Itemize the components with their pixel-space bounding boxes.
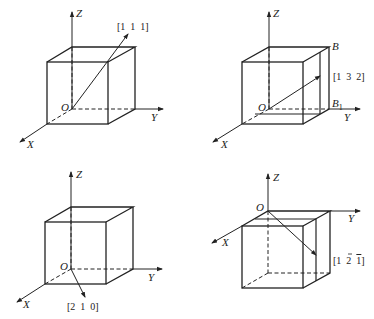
z-label: Z [273,7,280,19]
cube-front-face [47,62,108,124]
origin-label: O [61,101,69,113]
x-label: X [220,138,229,150]
x-label: X [22,298,31,310]
origin-label: O [256,201,264,213]
panel-210 [17,172,162,302]
origin-label: O [60,260,68,272]
z-label: Z [76,7,83,19]
direction-vector [72,34,128,109]
direction-vector [269,76,320,109]
x-label: X [221,236,230,248]
direction-label: [1 1 1] [117,21,149,32]
z-label: Z [76,168,83,180]
y-label: Y [348,212,356,224]
z-label: Z [273,171,280,183]
x-axis [17,284,45,302]
x-label: X [26,138,35,150]
point-b1-label: B1 [332,97,343,112]
direction-label: [1 3 2] [333,71,365,82]
crystal-directions-figure: O Z Y X [1 1 1] O Z Y X B B1 [1 3 2] O Z [0,0,374,319]
y-label: Y [148,271,156,283]
panel-12-1 [212,174,360,288]
y-label: Y [344,111,352,123]
y-label: Y [151,111,159,123]
direction-vector [71,269,85,297]
direction-vector [268,211,316,255]
origin-label: O [258,101,266,113]
direction-label: [2 1 0] [67,301,99,312]
cube-front-face [45,222,106,284]
point-b-label: B [332,40,339,52]
direction-label: [1 2 1] [333,255,365,266]
